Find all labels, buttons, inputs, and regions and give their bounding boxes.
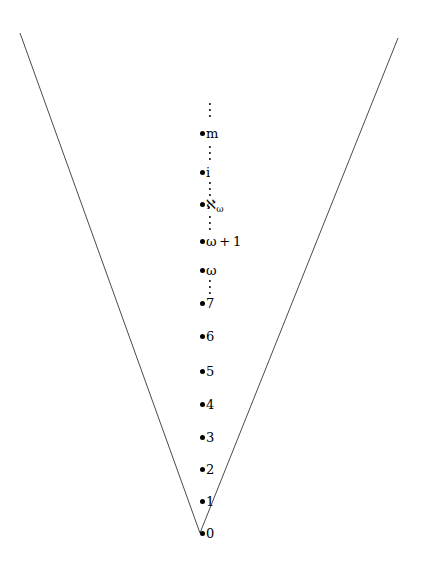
vdots-aleph-w1 xyxy=(209,214,211,232)
ordinal-point-dot xyxy=(200,202,205,207)
node-3: 3 xyxy=(200,429,214,445)
ordinal-point-dot xyxy=(200,170,205,175)
ellipsis-dot xyxy=(209,228,211,230)
ellipsis-dot xyxy=(209,182,211,184)
ellipsis-dot xyxy=(209,216,211,218)
ordinal-label: 1 xyxy=(206,495,214,508)
ordinal-label: 5 xyxy=(206,365,214,378)
node-0: 0 xyxy=(200,525,214,541)
node-5: 5 xyxy=(200,363,214,379)
ellipsis-dot xyxy=(209,222,211,224)
ellipsis-dot xyxy=(209,194,211,196)
ellipsis-dot xyxy=(209,286,211,288)
ordinal-label: ω+1 xyxy=(206,235,241,248)
ordinal-label: ω xyxy=(206,264,217,277)
ordinal-point-dot xyxy=(200,268,205,273)
vdots-above-m xyxy=(209,101,211,119)
node-4: 4 xyxy=(200,396,214,412)
node-i: i xyxy=(200,164,210,180)
ellipsis-dot xyxy=(209,188,211,190)
vdots-m-i xyxy=(209,144,211,162)
ellipsis-dot xyxy=(209,103,211,105)
ellipsis-dot xyxy=(209,292,211,294)
node-2: 2 xyxy=(200,461,214,477)
ellipsis-dot xyxy=(209,158,211,160)
ordinal-label: 6 xyxy=(206,330,214,343)
ordinal-point-dot xyxy=(200,369,205,374)
ordinal-point-dot xyxy=(200,131,205,136)
ordinal-point-dot xyxy=(200,531,205,536)
ordinal-label: 0 xyxy=(206,527,214,540)
ellipsis-dot xyxy=(209,280,211,282)
cone-left-edge xyxy=(20,33,200,533)
ordinal-label: 2 xyxy=(206,463,214,476)
node-w-plus-1: ω+1 xyxy=(200,233,241,249)
ellipsis-dot xyxy=(209,115,211,117)
node-aleph-w: ℵω xyxy=(200,196,224,214)
ellipsis-dot xyxy=(209,146,211,148)
ordinal-label: 3 xyxy=(206,431,214,444)
ordinal-point-dot xyxy=(200,239,205,244)
cone-right-edge xyxy=(200,38,398,533)
node-7: 7 xyxy=(200,295,214,311)
vdots-w-7 xyxy=(209,278,211,296)
ordinal-label: i xyxy=(206,166,210,179)
ordinal-hierarchy-figure: miℵωω+1ω76543210 xyxy=(0,0,429,563)
ordinal-label: ℵω xyxy=(206,198,224,214)
ordinal-point-dot xyxy=(200,334,205,339)
ordinal-point-dot xyxy=(200,499,205,504)
ordinal-point-dot xyxy=(200,467,205,472)
node-1: 1 xyxy=(200,493,214,509)
ordinal-point-dot xyxy=(200,435,205,440)
ordinal-label: 7 xyxy=(206,297,214,310)
cone-lines xyxy=(0,0,429,563)
vdots-i-aleph xyxy=(209,180,211,198)
ordinal-label: m xyxy=(206,127,219,140)
ordinal-point-dot xyxy=(200,301,205,306)
ordinal-label: 4 xyxy=(206,398,214,411)
node-w: ω xyxy=(200,262,217,278)
node-m: m xyxy=(200,125,219,141)
node-6: 6 xyxy=(200,328,214,344)
ellipsis-dot xyxy=(209,152,211,154)
ellipsis-dot xyxy=(209,109,211,111)
ordinal-point-dot xyxy=(200,402,205,407)
